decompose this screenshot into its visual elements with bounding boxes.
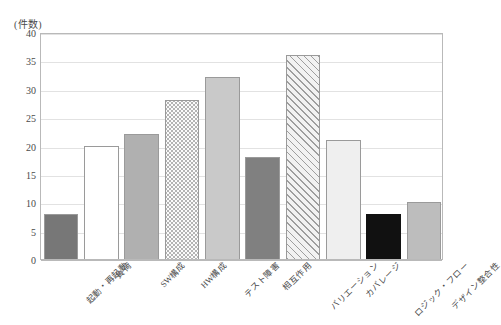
bar [84, 146, 119, 260]
bar [366, 214, 401, 259]
y-axis-tick-label: 10 [26, 198, 36, 209]
y-axis-tick-label: 35 [26, 56, 36, 67]
x-axis-tick-label: SW構成 [159, 261, 187, 289]
x-axis-tick-label: テスト障害 [244, 261, 282, 299]
y-axis-tick-label: 15 [26, 169, 36, 180]
y-axis-tick-label: 5 [31, 226, 36, 237]
bar [286, 55, 321, 259]
bar [44, 214, 79, 259]
bar [165, 100, 200, 259]
x-axis-tick-label: HW構成 [199, 261, 228, 290]
y-axis-tick-label: 25 [26, 113, 36, 124]
y-axis-tick-label: 30 [26, 84, 36, 95]
bar [124, 134, 159, 259]
x-axis-tick-labels: 起動・再起動負荷SW構成HW構成テスト障害相互作用バリエーションカバレージロジッ… [40, 261, 443, 325]
x-axis-tick-label: ロジック・フロー [413, 261, 470, 318]
bar [326, 140, 361, 259]
bars-group [41, 34, 442, 259]
bar [205, 77, 240, 259]
x-axis-tick-label: 相互作用 [281, 261, 312, 292]
plot-area [40, 33, 443, 260]
y-axis-tick-label: 40 [26, 28, 36, 39]
y-axis-tick-labels: 0510152025303540 [0, 33, 40, 260]
bar [407, 202, 442, 259]
y-axis-tick-label: 20 [26, 141, 36, 152]
y-axis-tick-label: 0 [31, 255, 36, 266]
bar [245, 157, 280, 259]
